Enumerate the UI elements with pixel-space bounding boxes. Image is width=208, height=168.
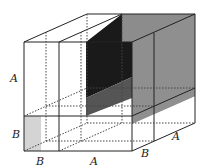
label-right-B: B xyxy=(140,147,149,160)
label-bottom-A: A xyxy=(89,155,98,168)
label-left-A: A xyxy=(9,72,18,85)
label-left-B: B xyxy=(11,128,20,141)
label-bottom-B: B xyxy=(35,155,44,168)
cube-diagram: A B B A B A xyxy=(0,0,208,168)
label-right-A: A xyxy=(171,130,180,143)
light-block xyxy=(24,116,41,151)
